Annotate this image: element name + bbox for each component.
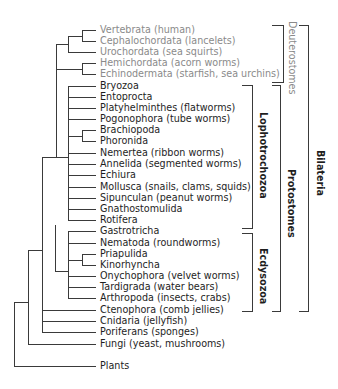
taxon-label: Cephalochordata (lancelets) <box>100 35 235 46</box>
taxon-label: Arthropoda (insects, crabs) <box>100 292 230 303</box>
taxon-label: Echinodermata (starfish, sea urchins) <box>100 68 280 79</box>
node-metazoa <box>42 157 96 321</box>
taxon-label: Entoprocta <box>100 91 152 102</box>
bracket-bilateria <box>299 25 308 311</box>
node-root <box>14 302 96 366</box>
taxon-label: Mollusca (snails, clams, squids) <box>100 181 251 192</box>
taxon-label: Nemertea (ribbon worms) <box>100 147 224 158</box>
taxon-label: Priapulida <box>100 248 148 259</box>
taxon-label: Gnathostomulida <box>100 203 182 214</box>
taxon-label: Hemichordata (acorn worms) <box>100 57 240 68</box>
taxon-label: Poriferans (sponges) <box>100 326 199 337</box>
taxon-label: Vertebrata (human) <box>100 24 195 35</box>
taxon-label: Pogonophora (tube worms) <box>100 113 230 124</box>
branch-priapulida <box>68 254 96 265</box>
taxon-label: Platyhelminthes (flatworms) <box>100 102 235 113</box>
taxon-label: Sipunculan (peanut worms) <box>100 192 232 203</box>
branch-brachiopoda <box>68 130 96 141</box>
taxon-label: Fungi (yeast, mushrooms) <box>100 338 225 349</box>
clade-label-ecdysozoa: Ecdysozoa <box>258 248 268 304</box>
taxon-label: Tardigrada (water bears) <box>100 281 218 292</box>
taxon-label: Urochordata (sea squirts) <box>100 46 222 57</box>
lopho-stubs <box>68 86 96 220</box>
bracket-ecdysozoa <box>242 233 252 311</box>
taxon-label: Echiura <box>100 169 136 180</box>
node-deuterostomia <box>56 44 82 157</box>
clade-label-bilateria: Bilateria <box>315 150 325 196</box>
bracket-protostomes <box>272 85 280 311</box>
node-ecdysozoa <box>55 225 68 298</box>
taxon-label: Brachiopoda <box>100 124 160 135</box>
taxon-label: Rotifera <box>100 214 138 225</box>
bracket-lophotrochozoa <box>242 85 252 228</box>
taxon-label: Bryozoa <box>100 80 139 91</box>
taxon-label: Annelida (segmented worms) <box>100 158 241 169</box>
branch-poriferans <box>42 321 96 332</box>
taxon-label: Onychophora (velvet worms) <box>100 270 239 281</box>
clade-label-deuterostomes: Deuterostomes <box>287 21 297 95</box>
clade-label-lophotrochozoa: Lophotrochozoa <box>258 112 268 199</box>
taxon-label: Phoronida <box>100 135 148 146</box>
taxon-label: Gastrotricha <box>100 225 159 236</box>
taxon-label: Plants <box>100 360 129 371</box>
taxon-label: Cnidaria (jellyfish) <box>100 315 187 326</box>
taxon-label: Kinorhyncha <box>100 259 160 270</box>
node-chordata <box>68 36 82 52</box>
clade-label-protostomes: Protostomes <box>286 169 296 238</box>
node-eukaryote-fungi <box>28 250 96 344</box>
taxon-label: Ctenophora (comb jellies) <box>100 304 224 315</box>
taxon-label: Nematoda (roundworms) <box>100 237 220 248</box>
